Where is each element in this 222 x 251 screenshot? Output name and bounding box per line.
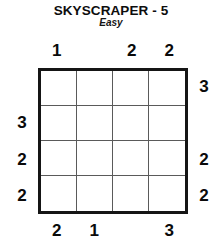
grid-cell-r2c3-value <box>113 106 148 140</box>
grid-cell-r1c1-value <box>41 71 76 105</box>
clue-top-4: 2 <box>151 35 189 65</box>
grid-cell-r2c3[interactable] <box>113 106 149 141</box>
puzzle-page: SKYSCRAPER - 5 Easy 1 2 2 3 2 2 <box>0 0 222 251</box>
grid-cell-r1c2[interactable] <box>77 71 113 106</box>
clue-top-1-value: 1 <box>52 42 61 59</box>
page-title: SKYSCRAPER - 5 <box>0 3 222 18</box>
puzzle-grid[interactable] <box>38 68 188 214</box>
grid-cell-r1c1[interactable] <box>41 71 77 106</box>
grid-cell-r3c2[interactable] <box>77 141 113 176</box>
grid-cell-r3c3[interactable] <box>113 141 149 176</box>
clue-bottom-2: 1 <box>76 215 114 245</box>
puzzle-area: 1 2 2 3 2 2 <box>0 31 222 251</box>
clue-left-2: 3 <box>8 105 36 142</box>
clue-left-1 <box>8 68 36 105</box>
clue-right-4-value: 2 <box>199 187 208 204</box>
grid-cell-r3c4-value <box>149 141 185 175</box>
grid-cell-r3c4[interactable] <box>149 141 185 176</box>
difficulty-label: Easy <box>0 17 222 28</box>
grid-cell-r4c2[interactable] <box>77 176 113 211</box>
clue-row-top: 1 2 2 <box>38 35 188 65</box>
grid-cell-r3c3-value <box>113 141 148 175</box>
grid-cell-r2c4-value <box>149 106 185 140</box>
grid-cell-r4c3[interactable] <box>113 176 149 211</box>
title-block: SKYSCRAPER - 5 Easy <box>0 0 222 28</box>
clue-right-2 <box>190 105 218 142</box>
grid-cell-r1c4-value <box>149 71 185 105</box>
clue-right-3-value: 2 <box>199 151 208 168</box>
clue-col-right: 3 2 2 <box>190 68 218 214</box>
grid-cell-r4c1[interactable] <box>41 176 77 211</box>
grid-cell-r4c3-value <box>113 176 148 211</box>
grid-cell-r1c2-value <box>77 71 112 105</box>
grid-cell-r3c1[interactable] <box>41 141 77 176</box>
clue-top-1: 1 <box>38 35 76 65</box>
clue-bottom-3 <box>113 215 151 245</box>
grid-cell-r2c2-value <box>77 106 112 140</box>
clue-bottom-2-value: 1 <box>90 222 99 239</box>
grid-cell-r4c2-value <box>77 176 112 211</box>
clue-top-4-value: 2 <box>165 42 174 59</box>
clue-right-1-value: 3 <box>199 78 208 95</box>
clue-bottom-4-value: 3 <box>165 222 174 239</box>
clue-left-4-value: 2 <box>17 187 26 204</box>
clue-top-3: 2 <box>113 35 151 65</box>
clue-left-3-value: 2 <box>17 151 26 168</box>
clue-bottom-1-value: 2 <box>52 222 61 239</box>
grid-cell-r3c1-value <box>41 141 76 175</box>
clue-col-left: 3 2 2 <box>8 68 36 214</box>
grid-cell-r1c4[interactable] <box>149 71 185 106</box>
clue-row-bottom: 2 1 3 <box>38 215 188 245</box>
grid-cell-r2c4[interactable] <box>149 106 185 141</box>
clue-left-4: 2 <box>8 178 36 215</box>
grid-cell-r4c1-value <box>41 176 76 211</box>
clue-bottom-1: 2 <box>38 215 76 245</box>
clue-right-1: 3 <box>190 68 218 105</box>
clue-top-3-value: 2 <box>127 42 136 59</box>
grid-cell-r2c1-value <box>41 106 76 140</box>
clue-left-2-value: 3 <box>17 114 26 131</box>
clue-top-2 <box>76 35 114 65</box>
grid-cell-r4c4[interactable] <box>149 176 185 211</box>
grid-cell-r1c3[interactable] <box>113 71 149 106</box>
grid-cell-r4c4-value <box>149 176 185 211</box>
clue-left-3: 2 <box>8 141 36 178</box>
grid-cell-r1c3-value <box>113 71 148 105</box>
clue-bottom-4: 3 <box>151 215 189 245</box>
grid-cell-r2c2[interactable] <box>77 106 113 141</box>
grid-cell-r2c1[interactable] <box>41 106 77 141</box>
clue-right-3: 2 <box>190 141 218 178</box>
grid-cell-r3c2-value <box>77 141 112 175</box>
clue-right-4: 2 <box>190 178 218 215</box>
